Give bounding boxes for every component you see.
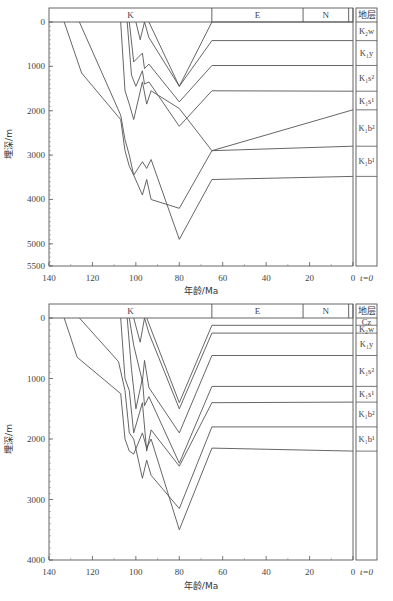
- strata-label: K₁b¹: [359, 156, 375, 166]
- burial-curves: [64, 22, 353, 239]
- x-tick-labels: 140120100806040200: [42, 556, 356, 577]
- svg-text:5000: 5000: [27, 239, 46, 249]
- svg-text:4000: 4000: [27, 555, 46, 565]
- svg-text:0: 0: [351, 273, 356, 283]
- period-label-E: E: [255, 306, 261, 316]
- svg-text:2000: 2000: [27, 434, 46, 444]
- x-axis-title: 年龄/Ma: [184, 580, 218, 591]
- svg-text:120: 120: [86, 273, 100, 283]
- burial-curve: [129, 318, 353, 433]
- strata-label: K₁s²: [359, 366, 374, 376]
- y-axis-title: 埋深/m: [4, 129, 14, 159]
- y-axis-title: 埋深/m: [4, 424, 14, 454]
- svg-text:2000: 2000: [27, 106, 46, 116]
- strata-label: K₁b¹: [359, 434, 375, 444]
- period-label-N: N: [323, 306, 330, 316]
- burial-curve: [79, 318, 353, 509]
- svg-text:0: 0: [351, 567, 356, 577]
- svg-text:120: 120: [86, 567, 100, 577]
- time-marker: t=0: [360, 567, 374, 577]
- burial-curve: [134, 318, 353, 409]
- svg-text:80: 80: [175, 273, 185, 283]
- strata-label: K₁s¹: [359, 389, 374, 399]
- svg-text:0: 0: [41, 17, 46, 27]
- strata-label: K₁b²: [359, 123, 375, 133]
- period-band-header: KEN: [49, 8, 353, 22]
- strata-label: K₁b²: [359, 409, 375, 419]
- strata-column: 地层CzK₂wK₁yK₁s²K₁s¹K₁b²K₁b¹t=0: [356, 304, 377, 577]
- svg-text:1000: 1000: [27, 61, 46, 71]
- svg-text:40: 40: [262, 567, 272, 577]
- burial-curves: [64, 318, 353, 530]
- period-band-header: KEN: [49, 304, 353, 318]
- burial-curve: [79, 22, 353, 208]
- period-label-K: K: [127, 10, 134, 20]
- burial-curve: [136, 22, 353, 86]
- period-label-N: N: [323, 10, 330, 20]
- burial-curve: [127, 318, 353, 463]
- svg-text:3000: 3000: [27, 495, 46, 505]
- burial-curve: [149, 22, 353, 86]
- svg-text:5500: 5500: [27, 261, 46, 271]
- burial-curve: [121, 22, 353, 151]
- strata-label: K₁y: [360, 48, 374, 58]
- svg-text:40: 40: [262, 273, 272, 283]
- burial-chart-2: KEN01000200030004000140120100806040200年龄…: [4, 304, 377, 591]
- strata-label: K₁y: [360, 339, 374, 349]
- strata-label: K₂w: [359, 324, 375, 334]
- svg-text:100: 100: [129, 273, 143, 283]
- burial-curve: [127, 22, 353, 126]
- burial-history-charts: KEN0100020003000400050005500140120100806…: [0, 0, 393, 601]
- svg-text:0: 0: [41, 313, 46, 323]
- burial-curve: [129, 22, 353, 102]
- svg-text:20: 20: [305, 273, 315, 283]
- svg-text:3000: 3000: [27, 150, 46, 160]
- x-tick-labels: 140120100806040200: [42, 262, 356, 283]
- svg-text:60: 60: [218, 273, 228, 283]
- period-label-K: K: [127, 306, 134, 316]
- strata-label: K₁s¹: [359, 96, 374, 106]
- burial-curve: [64, 22, 353, 239]
- svg-text:140: 140: [42, 273, 56, 283]
- svg-text:80: 80: [175, 567, 185, 577]
- burial-curve: [147, 318, 353, 403]
- strata-column: 地层K₂wK₁yK₁s²K₁s¹K₁b²K₁b¹t=0: [356, 8, 377, 283]
- svg-text:20: 20: [305, 567, 315, 577]
- svg-text:1000: 1000: [27, 374, 46, 384]
- strata-label: K₁s²: [359, 73, 374, 83]
- period-label-E: E: [255, 10, 261, 20]
- strata-header: 地层: [358, 305, 376, 316]
- svg-text:4000: 4000: [27, 194, 46, 204]
- x-axis-title: 年龄/Ma: [184, 285, 218, 296]
- time-marker: t=0: [360, 273, 374, 283]
- svg-text:100: 100: [129, 567, 143, 577]
- burial-chart-1: KEN0100020003000400050005500140120100806…: [4, 8, 377, 296]
- strata-header: 地层: [358, 9, 376, 20]
- svg-text:60: 60: [218, 567, 228, 577]
- strata-label: K₂w: [359, 26, 375, 36]
- svg-text:140: 140: [42, 567, 56, 577]
